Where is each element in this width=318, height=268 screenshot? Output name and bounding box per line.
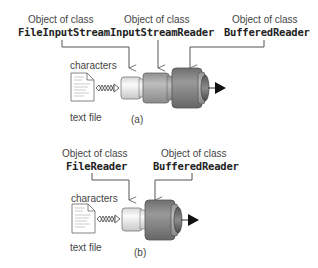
output-arrow-icon: [208, 82, 226, 94]
fileinputstream-pipe: [121, 77, 144, 99]
pointer-lines-a: [62, 40, 264, 68]
filereader-pipe: [122, 208, 146, 231]
stream-diagram-graphics: [0, 0, 318, 268]
character-flow-b-icon: [97, 215, 120, 223]
text-file-icon: [71, 73, 94, 101]
inputstreamreader-pipe: [143, 73, 173, 103]
bufferedreader-b-pipe: [145, 200, 182, 240]
output-arrow-b-icon: [181, 214, 199, 226]
text-file-b-icon: [72, 204, 95, 233]
bufferedreader-pipe: [172, 68, 209, 108]
pointer-lines-b: [92, 173, 192, 200]
character-flow-icon: [96, 84, 119, 92]
